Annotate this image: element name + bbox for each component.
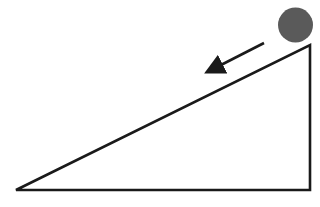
ball (278, 8, 313, 43)
inclined-plane-triangle (16, 45, 310, 190)
incline-diagram (0, 0, 320, 207)
motion-arrow-icon (218, 43, 264, 67)
